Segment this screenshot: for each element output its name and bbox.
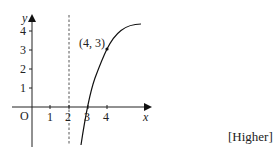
tick-label-x2: 2 — [65, 110, 71, 124]
tick-label-y2: 2 — [20, 62, 26, 76]
tick-label-x3: 3 — [84, 110, 90, 124]
point-annotation: (4, 3) — [79, 36, 105, 50]
y-axis-label: y — [21, 11, 28, 25]
x-axis-label: x — [142, 110, 149, 124]
difficulty-tag: [Higher] — [228, 129, 273, 145]
tick-label-y3: 3 — [20, 43, 26, 57]
point-4-3 — [105, 47, 108, 50]
tick-label-x4: 4 — [103, 110, 109, 124]
tick-label-x1: 1 — [47, 110, 53, 124]
y-axis-arrow-icon — [28, 14, 36, 22]
tick-label-y1: 1 — [20, 81, 26, 95]
origin-label: O — [20, 109, 29, 123]
tick-label-y4: 4 — [20, 24, 26, 38]
